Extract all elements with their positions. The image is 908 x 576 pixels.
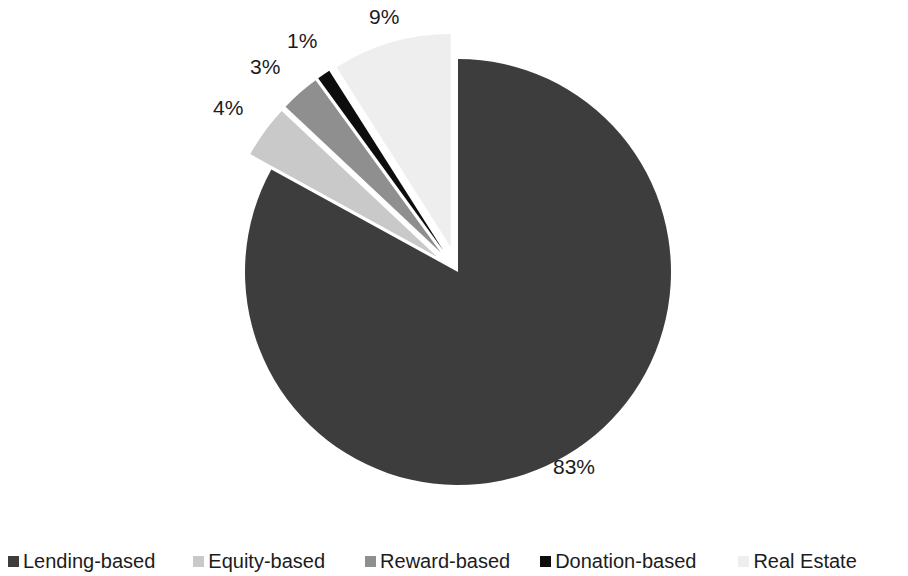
data-label-reward-based: 3%: [250, 55, 280, 79]
legend-item-equity-based[interactable]: Equity-based: [193, 545, 325, 576]
chart-legend: Lending-based Equity-based Reward-based …: [0, 545, 908, 576]
data-label-real-estate: 9%: [369, 5, 399, 29]
legend-item-lending-based[interactable]: Lending-based: [8, 545, 155, 576]
legend-item-real-estate[interactable]: Real Estate: [738, 545, 856, 576]
pie-chart: 83% 4% 3% 1% 9% Lending-based Equity-bas…: [0, 0, 908, 576]
legend-label-reward-based: Reward-based: [380, 549, 510, 573]
legend-swatch-icon-donation-based: [540, 556, 551, 567]
data-label-donation-based: 1%: [287, 29, 317, 53]
legend-item-reward-based[interactable]: Reward-based: [365, 545, 510, 576]
legend-label-equity-based: Equity-based: [208, 549, 325, 573]
legend-swatch-icon-reward-based: [365, 556, 376, 567]
data-label-equity-based: 4%: [213, 96, 243, 120]
legend-swatch-icon-real-estate: [738, 556, 749, 567]
legend-item-donation-based[interactable]: Donation-based: [540, 545, 696, 576]
legend-label-real-estate: Real Estate: [753, 549, 856, 573]
legend-label-donation-based: Donation-based: [555, 549, 696, 573]
data-label-lending-based: 83%: [553, 455, 595, 479]
chart-plot-area: 83% 4% 3% 1% 9%: [0, 0, 908, 528]
legend-label-lending-based: Lending-based: [23, 549, 155, 573]
legend-swatch-icon-lending-based: [8, 556, 19, 567]
legend-swatch-icon-equity-based: [193, 556, 204, 567]
pie-svg: [0, 0, 908, 528]
